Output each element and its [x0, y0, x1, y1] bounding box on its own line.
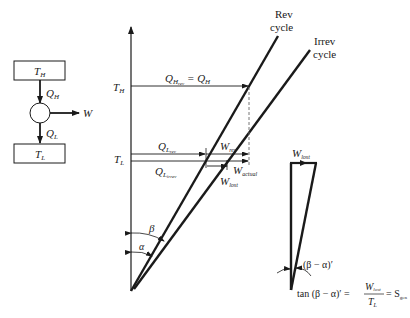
- alpha-arc: [131, 252, 152, 256]
- W-actual-label: Wactual: [233, 164, 258, 177]
- axis-label-TL: TL: [114, 153, 124, 167]
- irrev-cycle-label-2: cycle: [313, 48, 336, 60]
- equation-lhs: tan (β − α)′ =: [297, 288, 350, 300]
- work-label: W: [83, 107, 93, 119]
- triangle-angle-arc-left: [277, 269, 290, 273]
- rev-cycle-label-1: Rev: [275, 8, 293, 20]
- triangle-right-edge: [291, 163, 316, 290]
- engine-schematic: TH QH W QL TL: [14, 61, 93, 163]
- alpha-label: α: [139, 241, 145, 252]
- heat-in-label: QH: [46, 87, 60, 101]
- beta-arc: [131, 233, 164, 241]
- irrev-cycle-label-1: Irrev: [314, 35, 336, 47]
- inset-triangle: Wlost (β − α)′ tan (β − α)′ = Wlost TL =…: [277, 147, 407, 308]
- rev-cycle-label-2: cycle: [270, 21, 293, 33]
- equation-denominator: TL: [368, 296, 378, 308]
- triangle-angle-label: (β − α)′: [303, 259, 333, 271]
- W-lost-label: Wlost: [220, 175, 238, 188]
- main-diagram: TH TL Rev cycle Irrev cycle QHrev = QH Q…: [113, 8, 336, 291]
- triangle-top-arrowhead: [300, 160, 307, 166]
- triangle-W-lost-label: Wlost: [292, 147, 310, 160]
- QL-irrev-label: QLirrev: [155, 165, 177, 179]
- heat-out-label: QL: [46, 127, 58, 141]
- engine-circle: [30, 103, 50, 123]
- axis-label-TH: TH: [113, 81, 125, 95]
- W-rev-label: Wrev: [220, 140, 237, 153]
- QH-equation-label: QHrev = QH: [165, 72, 211, 86]
- equation-rhs: = Sgen: [386, 288, 407, 300]
- heat-engine-diagram: TH QH W QL TL TH TL Rev cycle Irrev cycl…: [0, 0, 410, 318]
- beta-label: β: [148, 222, 155, 234]
- QL-rev-label: QLrev: [158, 140, 177, 154]
- equation-numerator: Wlost: [365, 281, 381, 292]
